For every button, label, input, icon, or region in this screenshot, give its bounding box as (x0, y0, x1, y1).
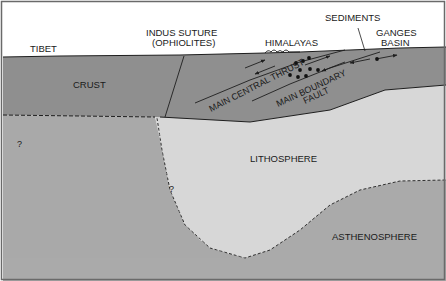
label-ophiolites: (OPHIOLITES) (152, 37, 215, 48)
uncertainty-mark-left: ? (17, 139, 22, 149)
himalaya-cross-section: TIBET INDUS SUTURE (OPHIOLITES) HIMALAYA… (0, 0, 446, 281)
label-himalayas: HIMALAYAS (265, 37, 318, 48)
label-sediments: SEDIMENTS (325, 12, 380, 23)
label-crust: CRUST (73, 79, 106, 90)
label-lithosphere: LITHOSPHERE (250, 153, 317, 164)
uncertainty-mark-slab: ? (169, 184, 174, 194)
label-asthenosphere: ASTHENOSPHERE (332, 231, 417, 242)
label-tibet: TIBET (30, 43, 57, 54)
label-basin: BASIN (381, 37, 410, 48)
